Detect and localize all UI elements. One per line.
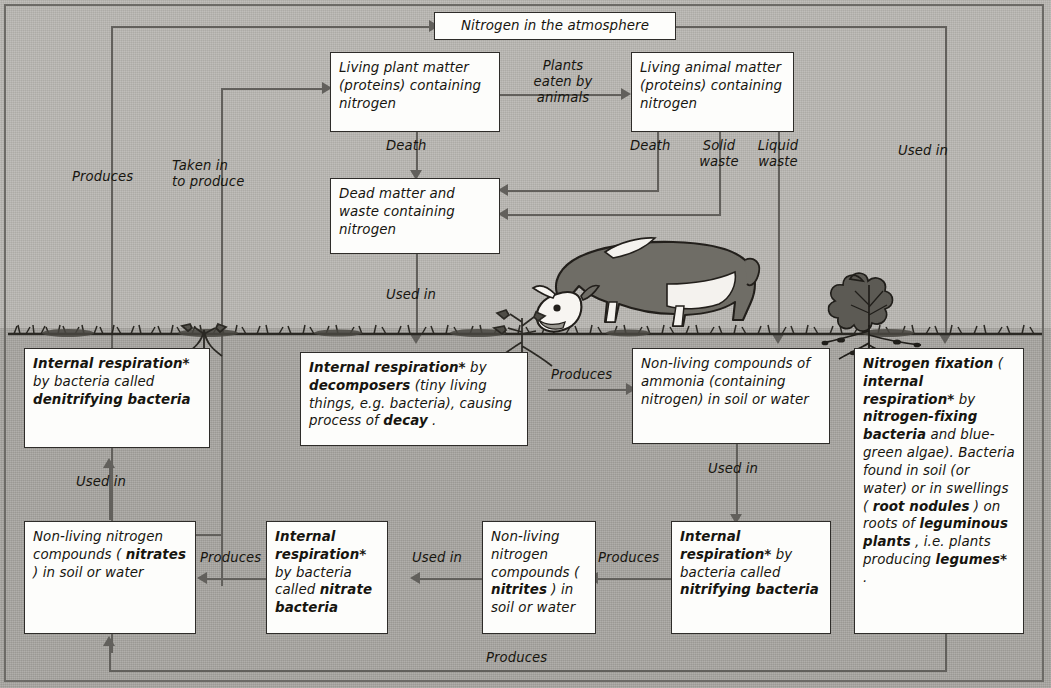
label-used-in-nitrites: Used in (412, 550, 462, 566)
box-living-animal-text: Living animal matter (proteins) containi… (640, 60, 782, 111)
connector-produces-ammonia (548, 389, 630, 391)
connector-produces-bottom-right (945, 634, 947, 672)
box-ammonia-compounds[interactable]: Non-living compounds of ammonia (contain… (632, 348, 830, 444)
decomposers-bold-decay: decay (383, 413, 427, 428)
fixation-bold-ir: internal respiration* (863, 374, 954, 407)
label-taken-in: Taken in to produce (172, 158, 244, 190)
label-produces-left: Produces (72, 169, 133, 185)
label-used-in-denitrifying: Used in (76, 474, 126, 490)
arrowhead-used-in-dead (410, 334, 422, 344)
decomposers-t1: by (470, 360, 487, 375)
connector-used-in-nitrifying (736, 444, 738, 518)
decomposers-bold-word: decomposers (309, 378, 410, 393)
connector-produces-bottom-left (109, 644, 111, 672)
connector-used-in-right-vertical (945, 26, 947, 338)
box-dead-matter-text: Dead matter and waste containing nitroge… (339, 186, 455, 237)
denitrifying-mid: by bacteria called (33, 374, 154, 389)
box-nitrate-bacteria[interactable]: Internal respiration* by bacteria called… (266, 521, 388, 634)
fixation-t2: by (959, 392, 976, 407)
arrowhead-used-in-denitrifying (103, 458, 115, 468)
box-living-animal-matter[interactable]: Living animal matter (proteins) containi… (631, 52, 794, 132)
label-death-plant: Death (386, 138, 426, 154)
box-nitrifying-bacteria[interactable]: Internal respiration* by bacteria called… (671, 521, 831, 634)
box-nitrogen-fixation[interactable]: Nitrogen fixation ( internal respiration… (854, 348, 1024, 634)
label-produces-bottom: Produces (486, 650, 547, 666)
connector-used-in-nitrites (418, 578, 482, 580)
connector-produces-nitrites (596, 578, 671, 580)
sky-background (0, 0, 1051, 330)
label-produces-nitrates: Produces (200, 550, 261, 566)
nitrifying-bold-lead: Internal respiration* (680, 529, 771, 562)
box-nitrites[interactable]: Non-living nitrogen compounds ( nitrites… (482, 521, 596, 634)
arrowhead-used-in-nitrites (410, 572, 420, 584)
box-nitrogen-atmosphere[interactable]: Nitrogen in the atmosphere (434, 12, 676, 40)
label-plants-eaten: Plants eaten by animals (516, 58, 610, 106)
connector-solid-waste-horizontal (506, 214, 721, 216)
label-used-in-dead: Used in (386, 287, 436, 303)
decomposers-bold-lead: Internal respiration* (309, 360, 466, 375)
nitrites-t1: Non-living nitrogen compounds ( (491, 529, 579, 580)
label-produces-nitrites: Produces (598, 550, 659, 566)
label-death-animal: Death (630, 138, 670, 154)
box-dead-matter[interactable]: Dead matter and waste containing nitroge… (330, 178, 500, 254)
box-decomposers[interactable]: Internal respiration* by decomposers (ti… (300, 352, 528, 446)
fixation-t6: . (863, 570, 867, 585)
nitrates-bold: nitrates (126, 547, 186, 562)
connector-death-animal-horizontal (506, 190, 659, 192)
box-living-plant-text: Living plant matter (proteins) containin… (339, 60, 481, 111)
arrowhead-produces-bottom (103, 636, 115, 646)
label-liquid-waste: Liquid waste (749, 138, 807, 170)
box-nitrates[interactable]: Non-living nitrogen compounds ( nitrates… (24, 521, 196, 634)
arrowhead-used-in-right (939, 334, 951, 344)
fixation-bold-nodules: root nodules (873, 499, 970, 514)
fixation-bold-title: Nitrogen fixation (863, 356, 993, 371)
arrowhead-to-living-animal (621, 88, 631, 100)
fixation-bold-legumes: legumes* (936, 552, 1008, 567)
connector-used-in-right-top (676, 26, 947, 28)
label-solid-waste: Solid waste (690, 138, 748, 170)
connector-taken-in-horizontal (221, 88, 326, 90)
nitrates-t2: ) in soil or water (33, 565, 144, 580)
decomposers-t3: . (432, 413, 436, 428)
box-denitrifying-bacteria[interactable]: Internal respiration* by bacteria called… (24, 348, 210, 448)
connector-nitrates-to-takenin (196, 534, 223, 536)
connector-produces-bottom-horizontal (109, 670, 947, 672)
nitrifying-bold-tail: nitrifying bacteria (680, 582, 819, 597)
connector-produces-left-top (111, 26, 433, 28)
label-produces-ammonia: Produces (551, 367, 612, 383)
nitrogen-cycle-diagram: Nitrogen in the atmosphere Living plant … (0, 0, 1051, 688)
label-used-in-right: Used in (898, 143, 948, 159)
connector-produces-nitrates (205, 578, 266, 580)
label-used-in-nitrifying: Used in (708, 461, 758, 477)
nitrate-bac-bold-lead: Internal respiration* (275, 529, 366, 562)
denitrifying-bold-lead: Internal respiration* (33, 356, 190, 371)
fixation-t1: ( (998, 356, 1003, 371)
arrowhead-liquid-waste (772, 334, 784, 344)
box-ammonia-text: Non-living compounds of ammonia (contain… (641, 356, 810, 407)
arrowhead-produces-nitrates (197, 572, 207, 584)
nitrites-bold: nitrites (491, 582, 547, 597)
box-atmosphere-text: Nitrogen in the atmosphere (461, 17, 649, 35)
denitrifying-bold-tail: denitrifying bacteria (33, 392, 191, 407)
box-living-plant-matter[interactable]: Living plant matter (proteins) containin… (330, 52, 500, 132)
